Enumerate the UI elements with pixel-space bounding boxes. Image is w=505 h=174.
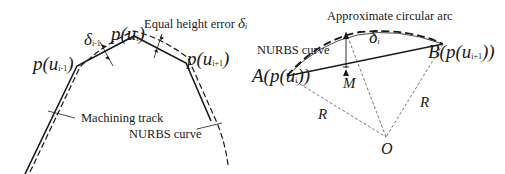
label-center-o: O bbox=[381, 141, 393, 157]
label-point-a: A(p(ui)) bbox=[252, 66, 310, 85]
label-point-b: B(p(ui+1)) bbox=[428, 42, 495, 61]
label-delta-prev: δi-1 bbox=[84, 31, 101, 48]
label-machining-track: Machining track bbox=[81, 112, 163, 125]
label-radius-left: R bbox=[318, 107, 327, 122]
label-approx-circular-arc: Approximate circular arc bbox=[327, 10, 453, 23]
label-equal-height-error: Equal height error δi bbox=[144, 16, 247, 31]
label-delta-i: δi bbox=[369, 28, 380, 46]
label-nurbs-curve-right: NURBS curve bbox=[257, 44, 330, 57]
label-midpoint-m: M bbox=[343, 76, 356, 91]
label-p-next: p(ui+1) bbox=[187, 49, 229, 68]
label-nurbs-curve-left: NURBS curve bbox=[129, 128, 202, 141]
label-p-curr: p(ui) bbox=[111, 24, 145, 43]
label-p-prev: p(ui-1) bbox=[33, 54, 74, 73]
diagram-canvas bbox=[0, 0, 505, 174]
delta-prev-arrow2-icon bbox=[105, 56, 110, 60]
label-radius-right: R bbox=[420, 95, 429, 110]
